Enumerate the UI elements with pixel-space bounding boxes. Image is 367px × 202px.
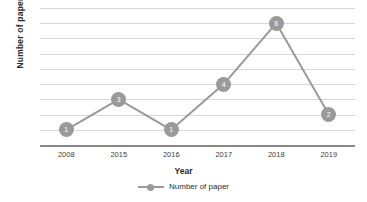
chart-legend: Number of paper — [0, 182, 367, 191]
y-axis-title: Number of paper — [15, 0, 25, 93]
plot-area: 131482 — [40, 8, 355, 145]
x-axis-tick-label: 2008 — [58, 150, 75, 159]
data-point-marker: 3 — [111, 92, 126, 107]
x-axis-tick-label: 2016 — [163, 150, 180, 159]
x-axis-line — [40, 145, 355, 147]
data-point-marker: 8 — [269, 16, 284, 31]
data-point-marker: 1 — [59, 122, 74, 137]
legend-entry-label: Number of paper — [169, 182, 229, 191]
line-marker-symbol-icon — [138, 182, 164, 191]
x-axis-tick-label: 2018 — [268, 150, 285, 159]
x-axis-tick-label: 2015 — [110, 150, 127, 159]
x-axis-title: Year — [0, 166, 367, 176]
x-axis-tick-labels: 200820152016201720182019 — [40, 150, 355, 164]
series-line — [40, 8, 355, 145]
data-point-marker: 1 — [164, 122, 179, 137]
x-axis-tick-label: 2017 — [215, 150, 232, 159]
data-point-marker: 4 — [216, 77, 231, 92]
line-chart: Number of paper 131482 20082015201620172… — [0, 0, 367, 202]
x-axis-tick-label: 2019 — [320, 150, 337, 159]
